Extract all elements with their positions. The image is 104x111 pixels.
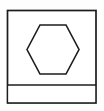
figure-canvas <box>0 0 104 111</box>
hexagon-diagram-svg <box>0 0 104 111</box>
bottom-empty-strip <box>8 86 95 102</box>
